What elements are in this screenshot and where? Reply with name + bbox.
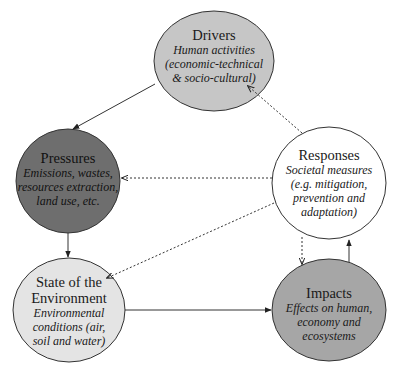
pressures-desc-line-3: land use, etc.: [14, 194, 122, 208]
impacts-desc-line-2: economy and: [272, 315, 386, 329]
impacts-desc-line-3: ecosystems: [272, 329, 386, 343]
drivers-title: Drivers: [154, 27, 274, 43]
dotted-arrow-responses-to-drivers: [248, 86, 302, 133]
pressures-node: Pressures Emissions, wastes, resources e…: [14, 150, 122, 208]
drivers-desc-line-3: & socio-cultural): [154, 71, 274, 85]
responses-desc-line-1: Societal measures: [272, 163, 386, 177]
dpsir-diagram: Drivers Human activities (economic-techn…: [0, 0, 393, 375]
drivers-desc-line-1: Human activities: [154, 43, 274, 57]
responses-desc-line-3: prevention and: [272, 191, 386, 205]
responses-title: Responses: [272, 147, 386, 163]
responses-desc-line-2: (e.g. mitigation,: [272, 177, 386, 191]
pressures-title: Pressures: [14, 150, 122, 166]
pressures-desc-line-1: Emissions, wastes,: [14, 166, 122, 180]
pressures-desc-line-2: resources extraction,: [14, 180, 122, 194]
impacts-title: Impacts: [272, 285, 386, 301]
responses-node: Responses Societal measures (e.g. mitiga…: [272, 147, 386, 219]
drivers-node: Drivers Human activities (economic-techn…: [154, 27, 274, 85]
state-desc-line-3: soil and water): [13, 334, 125, 348]
impacts-node: Impacts Effects on human, economy and ec…: [272, 285, 386, 343]
state-title-line-2: Environment: [13, 290, 125, 306]
arrow-drivers-to-pressures: [73, 84, 155, 129]
state-desc-line-2: conditions (air,: [13, 320, 125, 334]
dotted-arrow-responses-to-state: [107, 203, 274, 278]
impacts-desc-line-1: Effects on human,: [272, 301, 386, 315]
state-node: State of the Environment Environmental c…: [13, 274, 125, 348]
drivers-desc-line-2: (economic-technical: [154, 57, 274, 71]
state-title-line-1: State of the: [13, 274, 125, 290]
responses-desc-line-4: adaptation): [272, 205, 386, 219]
state-desc-line-1: Environmental: [13, 306, 125, 320]
